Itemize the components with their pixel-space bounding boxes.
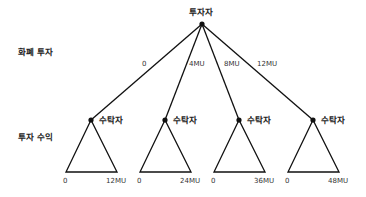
- payoff-high-0: 12MU: [106, 177, 126, 185]
- payoff-high-1: 24MU: [180, 177, 200, 185]
- payoff-triangle-1: [140, 120, 191, 172]
- root-label: 투자자: [189, 5, 213, 17]
- edge-label-0: 0: [142, 60, 146, 68]
- trustee-label-1: 수탁자: [173, 113, 197, 125]
- trustee-label-2: 수탁자: [247, 113, 271, 125]
- trustee-label-3: 수탁자: [321, 113, 345, 125]
- edge-label-2: 8MU: [224, 60, 240, 68]
- trustee-node-3: [310, 117, 315, 122]
- trustee-node-2: [236, 117, 241, 122]
- edge-label-3: 12MU: [257, 60, 277, 68]
- payoff-triangle-3: [288, 120, 339, 172]
- payoff-high-2: 36MU: [254, 177, 274, 185]
- edge-1: [165, 24, 202, 120]
- trustee-label-0: 수탁자: [99, 113, 123, 125]
- row-label-investment: 화폐 투자: [18, 45, 53, 57]
- edge-label-1: 4MU: [189, 60, 205, 68]
- edge-3: [202, 24, 313, 120]
- payoff-high-3: 48MU: [328, 177, 348, 185]
- payoff-low-2: 0: [211, 177, 215, 185]
- payoff-low-0: 0: [63, 177, 67, 185]
- row-label-return: 투자 수익: [18, 130, 53, 142]
- edge-2: [202, 24, 239, 120]
- edge-0: [91, 24, 202, 120]
- payoff-triangle-2: [214, 120, 265, 172]
- payoff-low-3: 0: [285, 177, 289, 185]
- payoff-low-1: 0: [137, 177, 141, 185]
- game-tree-lines: [0, 0, 366, 197]
- trustee-node-0: [88, 117, 93, 122]
- payoff-triangle-0: [66, 120, 117, 172]
- trustee-node-1: [162, 117, 167, 122]
- root-node: [199, 21, 204, 26]
